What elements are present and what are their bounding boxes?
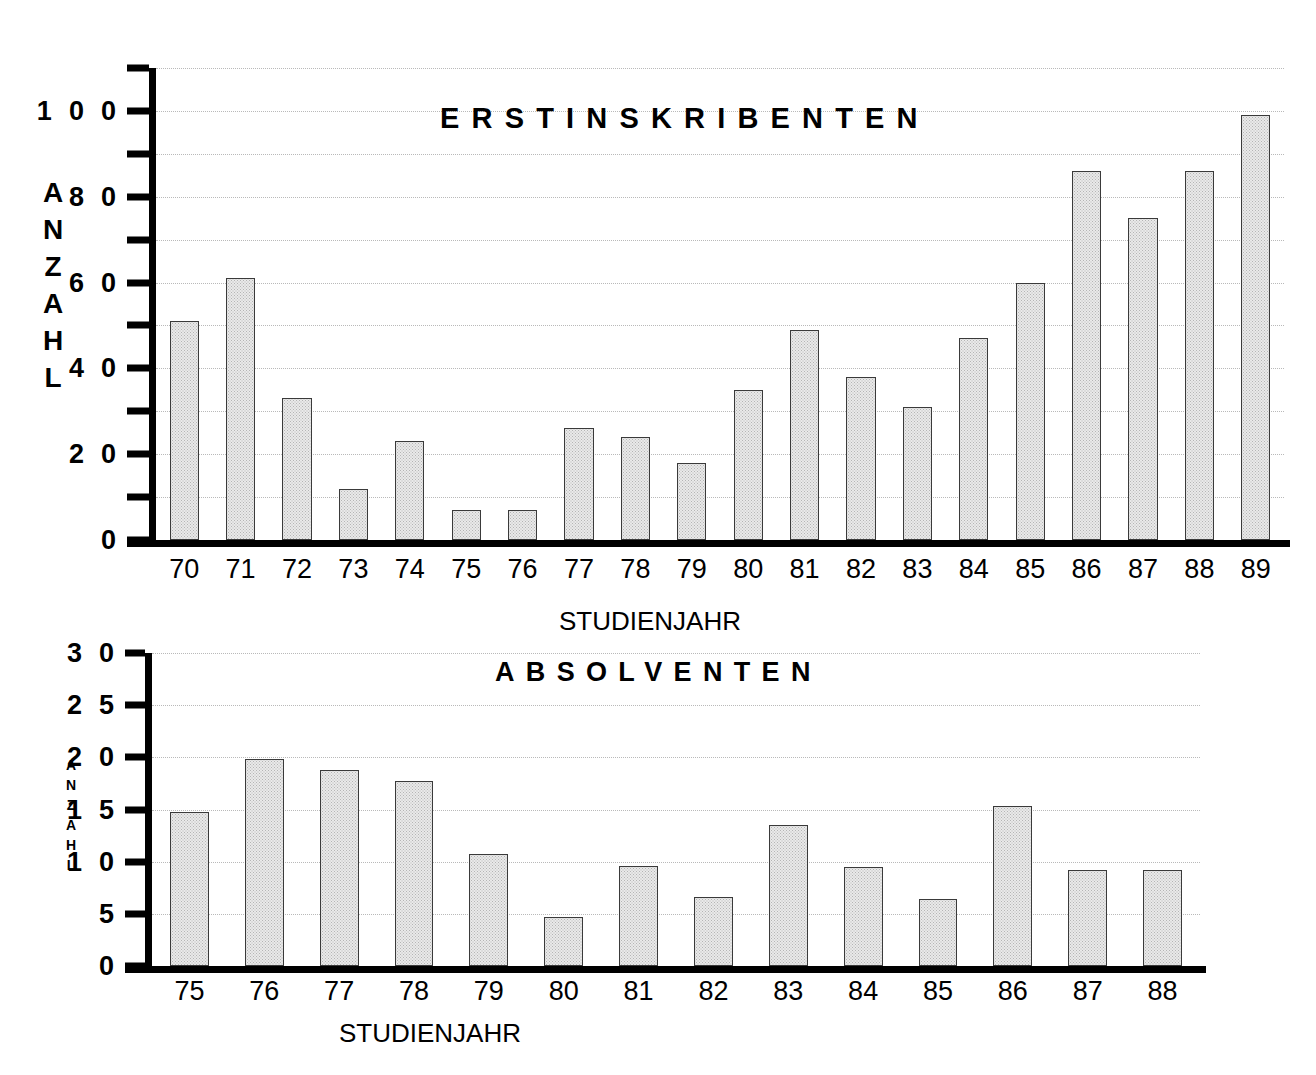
y-axis-tick — [125, 806, 145, 813]
bar — [282, 398, 311, 540]
bar — [993, 806, 1032, 966]
bar — [734, 390, 763, 540]
x-axis-tick-label: 84 — [848, 976, 878, 1007]
bar — [452, 510, 481, 540]
figure-page: A N Z A H L 02 04 06 08 01 0 0 707172737… — [0, 0, 1316, 1075]
bar — [170, 812, 209, 966]
y-axis-tick-label: 1 0 — [67, 846, 119, 877]
x-axis-tick-label: 75 — [451, 554, 481, 585]
y-axis-tick — [125, 963, 145, 970]
y-axis-tick-label: 6 0 — [69, 267, 121, 298]
bar — [1016, 283, 1045, 540]
bar — [339, 489, 368, 540]
x-axis-tick-label: 88 — [1184, 554, 1214, 585]
y-axis-tick — [127, 494, 149, 501]
y-axis-tick-label: 0 — [99, 951, 119, 982]
y-axis-tick — [125, 702, 145, 709]
chart-absolventen: A N Z A H L 051 01 52 02 53 0 7576777879… — [0, 640, 1316, 1075]
y-axis-tick-labels-erstinskribenten: 02 04 06 08 01 0 0 — [0, 0, 121, 580]
plot-area-absolventen — [152, 653, 1200, 966]
bar — [245, 759, 284, 966]
y-axis-tick-label: 3 0 — [67, 638, 119, 669]
y-axis-tick — [125, 910, 145, 917]
x-axis-tick-label: 78 — [399, 976, 429, 1007]
chart-title-absolventen: ABSOLVENTEN — [495, 657, 822, 688]
bar — [1128, 218, 1157, 540]
bar — [395, 781, 434, 966]
x-axis-tick-label: 80 — [733, 554, 763, 585]
y-axis-tick — [127, 193, 149, 200]
chart-erstinskribenten: A N Z A H L 02 04 06 08 01 0 0 707172737… — [0, 0, 1316, 640]
x-axis-tick-label: 70 — [169, 554, 199, 585]
bar — [846, 377, 875, 540]
x-axis-tick-label: 80 — [549, 976, 579, 1007]
x-axis-tick-label: 82 — [846, 554, 876, 585]
x-axis-tick-label: 72 — [282, 554, 312, 585]
x-axis-tick-label: 84 — [959, 554, 989, 585]
y-axis-tick — [125, 754, 145, 761]
x-axis-tick-label: 79 — [677, 554, 707, 585]
y-axis-tick-label: 1 0 0 — [37, 95, 121, 126]
y-axis-tick-label: 2 0 — [67, 742, 119, 773]
chart-title-erstinskribenten: ERSTINSKRIBENTEN — [440, 102, 930, 135]
x-axis-tick-label: 75 — [174, 976, 204, 1007]
bar — [621, 437, 650, 540]
y-axis-tick — [127, 451, 149, 458]
x-axis-tick-label: 86 — [1072, 554, 1102, 585]
bar — [564, 428, 593, 540]
y-axis-tick-label: 2 0 — [69, 439, 121, 470]
y-axis-tick-label: 8 0 — [69, 181, 121, 212]
bar — [395, 441, 424, 540]
bar — [903, 407, 932, 540]
bar-series-absolventen — [152, 653, 1200, 966]
bar — [469, 854, 508, 966]
x-axis-tick-label: 82 — [698, 976, 728, 1007]
y-axis-tick — [127, 537, 149, 544]
bar — [508, 510, 537, 540]
x-axis-tick-label: 81 — [790, 554, 820, 585]
x-axis-title-erstinskribenten: STUDIENJAHR — [559, 606, 741, 637]
bar — [919, 899, 958, 966]
y-axis-tick-labels-absolventen: 051 01 52 02 53 0 — [0, 640, 119, 1006]
y-axis-tick — [127, 150, 149, 157]
x-axis-tick-label: 81 — [624, 976, 654, 1007]
x-axis-tick-label: 89 — [1241, 554, 1271, 585]
x-axis-tick-label: 88 — [1148, 976, 1178, 1007]
x-axis-title-absolventen: STUDIENJAHR — [339, 1018, 521, 1049]
y-axis-spine-absolventen — [145, 653, 152, 967]
x-axis-baseline-erstinskribenten — [127, 540, 1290, 547]
bar — [959, 338, 988, 540]
y-axis-tick — [127, 279, 149, 286]
y-axis-tick — [127, 322, 149, 329]
x-axis-tick-label: 71 — [226, 554, 256, 585]
x-axis-tick-label: 87 — [1128, 554, 1158, 585]
x-axis-baseline-absolventen — [125, 966, 1206, 973]
y-axis-tick — [127, 236, 149, 243]
x-axis-tick-label: 76 — [249, 976, 279, 1007]
x-axis-tick-label: 85 — [1015, 554, 1045, 585]
bar — [619, 866, 658, 966]
bar — [1241, 115, 1270, 540]
bar — [1185, 171, 1214, 540]
plot-area-erstinskribenten — [156, 68, 1284, 540]
bar — [544, 917, 583, 966]
x-axis-tick-label: 87 — [1073, 976, 1103, 1007]
bar-series-erstinskribenten — [156, 68, 1284, 540]
bar — [694, 897, 733, 966]
x-axis-tick-label: 85 — [923, 976, 953, 1007]
y-axis-tick-label: 4 0 — [69, 353, 121, 384]
x-axis-tick-label: 79 — [474, 976, 504, 1007]
bar — [769, 825, 808, 966]
y-axis-tick — [127, 365, 149, 372]
x-axis-tick-label: 77 — [564, 554, 594, 585]
y-axis-spine-erstinskribenten — [149, 68, 156, 541]
y-axis-tick — [127, 65, 149, 72]
x-axis-tick-label: 77 — [324, 976, 354, 1007]
x-axis-tick-label: 74 — [395, 554, 425, 585]
bar — [320, 770, 359, 966]
bar — [790, 330, 819, 540]
bar — [1068, 870, 1107, 966]
x-axis-tick-label: 78 — [620, 554, 650, 585]
x-axis-tick-label: 76 — [508, 554, 538, 585]
y-axis-tick — [125, 650, 145, 657]
